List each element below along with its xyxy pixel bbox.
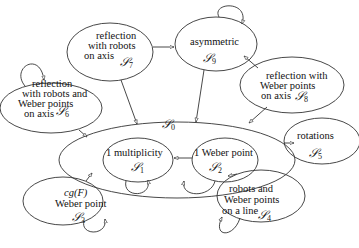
state-diagram-canvas (0, 0, 359, 248)
node-s9-label: asymmetric (190, 36, 239, 47)
edge-s7-to-s0 (121, 80, 137, 124)
node-s6-label-line4: on axis (24, 108, 54, 119)
node-s8-label-line3: on axis (261, 90, 291, 101)
self-loop-s4 (219, 217, 240, 233)
edge-s6-to-s0 (79, 130, 87, 137)
edge-s9-to-s0 (196, 70, 204, 122)
node-s2-ellipse (192, 138, 258, 182)
node-s3-label-line2: Weber point (55, 198, 106, 209)
node-s2-symbol: 𝒮2 (209, 160, 222, 175)
node-s0-symbol: 𝒮0 (162, 117, 175, 132)
node-s4-symbol: 𝒮4 (258, 208, 271, 223)
edge-s8-to-s0 (249, 107, 267, 123)
self-loop-s3 (84, 219, 106, 232)
edge-s3-to-s0 (86, 173, 92, 181)
node-s3-label-line1: cg(F) (64, 187, 87, 198)
node-s7-label-line3: on axis (84, 50, 114, 61)
node-s2-label: 1 Weber point (194, 147, 253, 158)
node-s9-symbol: 𝒮9 (203, 51, 216, 66)
self-loop-s2 (184, 181, 215, 194)
node-s5-label: rotations (297, 130, 334, 141)
node-s4-label-line3: on a line (222, 205, 258, 216)
node-s1-symbol: 𝒮1 (131, 160, 144, 175)
node-s8-symbol: 𝒮8 (295, 89, 308, 104)
node-s4-label-line1: robots and (229, 183, 273, 194)
node-s3-symbol: 𝒮3 (72, 210, 85, 225)
node-s4-label-line2: Weber points (224, 194, 279, 205)
node-s6-symbol: 𝒮6 (56, 104, 69, 119)
node-s7-symbol: 𝒮7 (120, 55, 133, 70)
node-s5-symbol: 𝒮5 (309, 146, 322, 161)
node-s1-label: 1 multiplicity (106, 147, 163, 158)
